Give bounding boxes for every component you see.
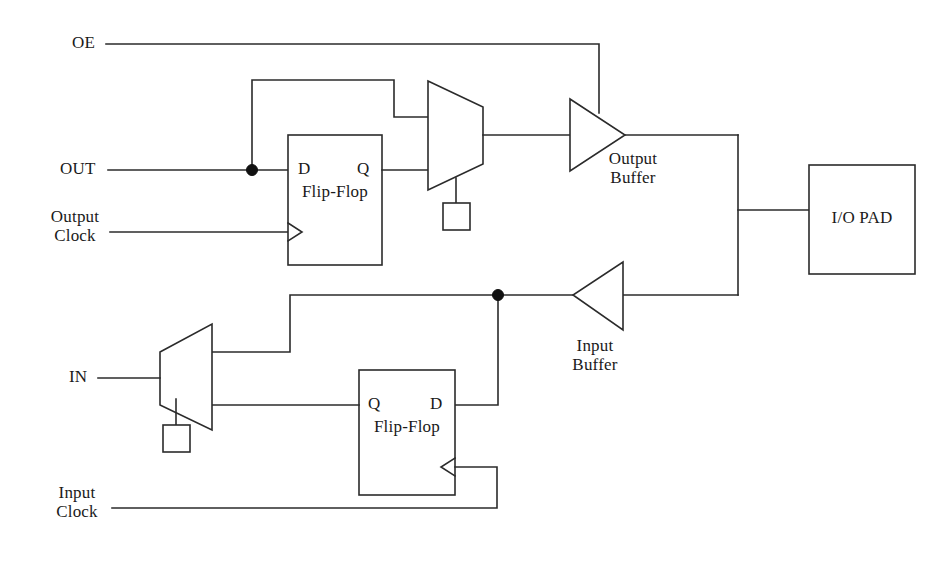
output-buffer-label-line1: Output [590, 149, 676, 168]
input-buffer-label-line1: Input [552, 336, 638, 355]
label-output-clock-line2: Clock [40, 226, 110, 245]
junction-dot-out [247, 165, 258, 176]
output-ff-q-label: Q [357, 159, 369, 178]
label-input-clock-line2: Clock [42, 502, 112, 521]
input-buffer-label-line2: Buffer [552, 355, 638, 374]
wire-input-bypass [212, 295, 498, 352]
input-ff-q-label: Q [368, 394, 380, 413]
diagram-canvas: OE OUT Output Clock IN Input Clock D Q F… [0, 0, 950, 562]
input-ff-name-label: Flip-Flop [359, 417, 455, 436]
output-ff-d-label: D [298, 159, 310, 178]
wire-oe [106, 44, 599, 113]
output-mux-config-box [443, 203, 470, 230]
output-ff-name-label: Flip-Flop [288, 182, 382, 201]
output-buffer-label-line2: Buffer [590, 168, 676, 187]
circuit-schematic [0, 0, 950, 562]
wire-input-to-ff-d [455, 295, 498, 405]
label-input-clock-line1: Input [42, 483, 112, 502]
input-ff-d-label: D [430, 394, 442, 413]
input-buffer-shape [573, 262, 623, 330]
label-out: OUT [60, 159, 96, 178]
label-output-clock-line1: Output [40, 207, 110, 226]
input-mux-shape [160, 324, 212, 430]
output-mux-shape [428, 81, 483, 190]
input-mux-config-box [163, 425, 190, 452]
label-oe: OE [72, 33, 95, 52]
io-pad-label: I/O PAD [809, 208, 915, 227]
junction-dot-in [493, 290, 504, 301]
label-in: IN [69, 367, 87, 386]
